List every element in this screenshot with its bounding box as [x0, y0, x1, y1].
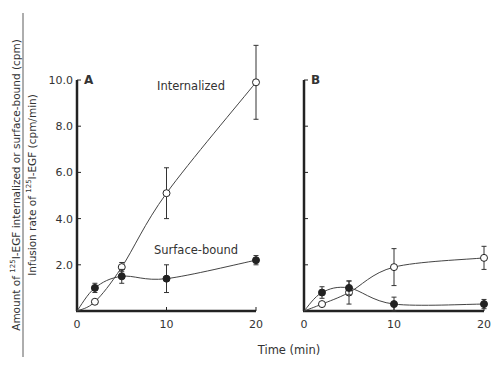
x-tick-label: 0 — [74, 318, 81, 331]
y-tick-label: 4.0 — [56, 213, 74, 226]
y-tick-label: 10.0 — [49, 74, 74, 87]
open-circle-marker — [481, 254, 488, 261]
y-tick-label: 6.0 — [56, 166, 74, 179]
y-axis-title: Amount of 125I-EGF internalized or surfa… — [9, 13, 38, 357]
filled-circle-marker — [253, 257, 260, 264]
x-tick-label: 20 — [477, 318, 491, 331]
panel-label: B — [311, 73, 320, 87]
x-tick-label: 0 — [301, 318, 308, 331]
annotation-internalized: Internalized — [157, 79, 225, 93]
filled-circle-marker — [391, 301, 398, 308]
filled-circle-marker — [346, 284, 353, 291]
y-tick-label: 8.0 — [56, 120, 74, 133]
y-tick-label: 2.0 — [56, 259, 74, 272]
x-axis-title: Time (min) — [257, 343, 320, 357]
filled-circle-marker — [319, 289, 326, 296]
chart-canvas: Amount of 125I-EGF internalized or surfa… — [0, 0, 496, 369]
panel-label: A — [84, 73, 94, 87]
filled-circle-marker — [91, 284, 98, 291]
x-tick-label: 10 — [160, 318, 174, 331]
annotation-surface-bound: Surface-bound — [154, 243, 238, 257]
open-circle-marker — [391, 264, 398, 271]
x-tick-label: 20 — [249, 318, 263, 331]
panel-b: 01020B — [301, 73, 492, 331]
panel-a: 2.04.06.08.010.001020AInternalizedSurfac… — [49, 45, 264, 331]
open-circle-marker — [163, 190, 170, 197]
filled-circle-marker — [118, 273, 125, 280]
filled-circle-marker — [481, 301, 488, 308]
y-axis-title-denominator: Infusion rate of 125I-EGF (cpm/min) — [25, 94, 38, 276]
y-axis-title-numerator: Amount of 125I-EGF internalized or surfa… — [9, 39, 22, 331]
open-circle-marker — [253, 79, 260, 86]
open-circle-marker — [91, 298, 98, 305]
open-circle-marker — [319, 301, 326, 308]
x-tick-label: 10 — [387, 318, 401, 331]
filled-circle-marker — [163, 275, 170, 282]
